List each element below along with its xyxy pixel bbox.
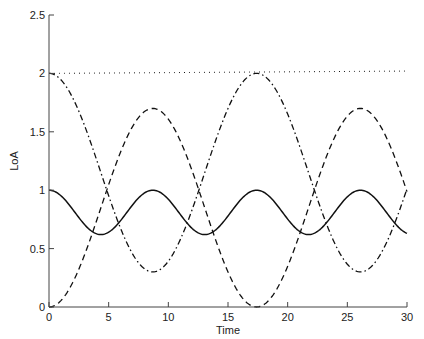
series-dashed (49, 108, 407, 307)
x-axis-ticks: 051015202530 (46, 302, 413, 323)
y-tick-label: 0.5 (30, 243, 45, 255)
x-tick-label: 10 (162, 311, 174, 323)
y-tick-label: 1 (39, 184, 45, 196)
x-tick-label: 30 (401, 311, 413, 323)
y-tick-label: 2.5 (30, 9, 45, 21)
y-tick-label: 0 (39, 301, 45, 313)
series-solid (49, 190, 407, 234)
x-tick-label: 5 (106, 311, 112, 323)
x-axis-label: Time (216, 324, 240, 336)
x-tick-label: 0 (46, 311, 52, 323)
y-axis-ticks: 00.511.522.5 (30, 9, 54, 313)
series-dotted (49, 71, 407, 73)
x-tick-label: 15 (222, 311, 234, 323)
y-tick-label: 1.5 (30, 126, 45, 138)
axes: 051015202530 00.511.522.5 (30, 9, 413, 323)
y-tick-label: 2 (39, 67, 45, 79)
line-chart: 051015202530 00.511.522.5 Time LoA (0, 0, 424, 339)
series-dash-dot (49, 73, 407, 272)
x-tick-label: 20 (282, 311, 294, 323)
series-layer (49, 71, 407, 307)
y-axis-label: LoA (8, 151, 20, 171)
x-tick-label: 25 (341, 311, 353, 323)
